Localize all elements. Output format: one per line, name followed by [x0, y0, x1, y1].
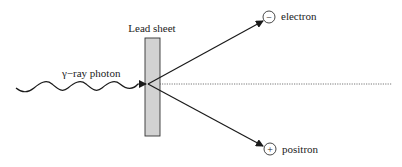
positron-arrow — [148, 84, 263, 146]
positron-sign: + — [267, 144, 273, 155]
positron-symbol: + — [264, 143, 276, 155]
photon-wave — [16, 82, 146, 92]
electron-symbol: − — [263, 11, 275, 23]
electron-label: electron — [281, 10, 317, 22]
pair-production-diagram: − + Lead sheet γ−ray photon electron pos… — [0, 0, 402, 167]
photon-label: γ−ray photon — [61, 67, 121, 79]
lead-sheet-label: Lead sheet — [128, 22, 175, 34]
positron-label: positron — [282, 143, 319, 155]
electron-sign: − — [266, 12, 272, 23]
